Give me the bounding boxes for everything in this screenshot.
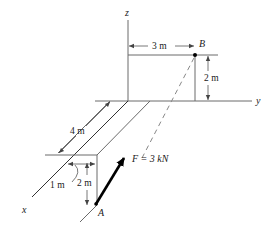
force-diagram: z y x B A F = 3 kN xyxy=(0,0,274,227)
dimension-4m-label: 4 m xyxy=(70,126,85,136)
point-a-label: A xyxy=(97,207,105,218)
dimension-1m-label: 1 m xyxy=(50,180,65,190)
line-of-action xyxy=(142,56,195,158)
force-arrow xyxy=(96,158,124,204)
point-b xyxy=(193,53,197,57)
y-axis-label: y xyxy=(255,95,261,106)
x-axis-label: x xyxy=(21,204,27,215)
point-b-label: B xyxy=(199,38,205,49)
force-label: F = 3 kN xyxy=(131,153,170,164)
dimension-2m-b-label: 2 m xyxy=(204,73,219,83)
dimension-2m-a-label: 2 m xyxy=(77,178,92,188)
z-axis-label: z xyxy=(124,7,129,18)
dimension-3m-label: 3 m xyxy=(152,41,167,51)
